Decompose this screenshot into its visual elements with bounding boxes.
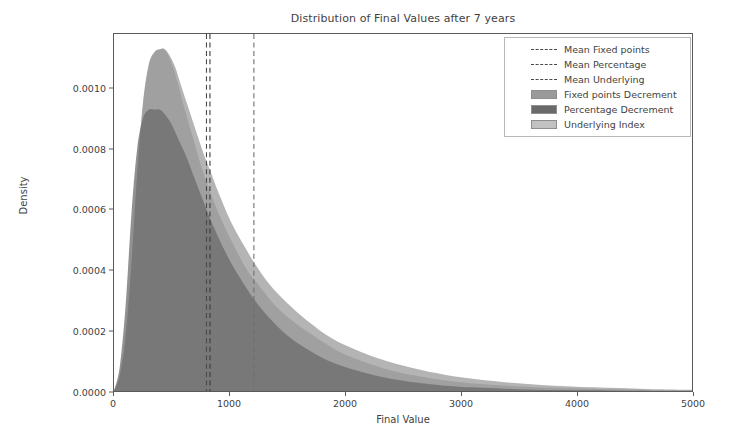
x-tick-mark	[229, 392, 230, 396]
chart-legend: Mean Fixed pointsMean PercentageMean Und…	[504, 37, 691, 137]
y-axis-label: Density	[18, 151, 29, 241]
y-axis-ticks: 0.00000.00020.00040.00060.00080.0010	[40, 0, 106, 440]
legend-color-patch-icon	[531, 120, 557, 129]
legend-dashed-line-icon	[531, 44, 557, 55]
legend-item[interactable]: Fixed points Decrement	[505, 87, 690, 102]
y-tick-mark	[109, 209, 113, 210]
legend-dashed-line-icon	[531, 59, 557, 70]
y-tick-label: 0.0004	[44, 265, 106, 276]
y-tick-mark	[109, 87, 113, 88]
x-tick-mark	[113, 392, 114, 396]
y-tick-mark	[109, 270, 113, 271]
legend-item-label: Fixed points Decrement	[564, 89, 677, 100]
y-tick-label: 0.0000	[44, 387, 106, 398]
legend-item[interactable]: Underlying Index	[505, 117, 690, 132]
x-axis-label: Final Value	[113, 414, 693, 425]
x-tick-mark	[693, 392, 694, 396]
y-tick-label: 0.0010	[44, 82, 106, 93]
x-tick-mark	[577, 392, 578, 396]
legend-item-label: Mean Percentage	[564, 59, 646, 70]
legend-item-label: Underlying Index	[564, 119, 645, 130]
x-tick-label: 2000	[333, 398, 357, 409]
x-tick-label: 4000	[565, 398, 589, 409]
x-tick-mark	[461, 392, 462, 396]
y-tick-label: 0.0008	[44, 143, 106, 154]
legend-item[interactable]: Mean Fixed points	[505, 42, 690, 57]
y-tick-mark	[109, 331, 113, 332]
y-tick-label: 0.0002	[44, 326, 106, 337]
legend-color-patch-icon	[531, 105, 557, 114]
legend-item-label: Mean Fixed points	[564, 44, 650, 55]
chart-figure: Distribution of Final Values after 7 yea…	[0, 0, 742, 440]
legend-item[interactable]: Mean Percentage	[505, 57, 690, 72]
legend-item[interactable]: Mean Underlying	[505, 72, 690, 87]
x-tick-label: 0	[110, 398, 116, 409]
legend-item-label: Mean Underlying	[564, 74, 645, 85]
y-tick-label: 0.0006	[44, 204, 106, 215]
chart-title: Distribution of Final Values after 7 yea…	[113, 12, 693, 25]
y-tick-mark	[109, 148, 113, 149]
legend-color-patch-icon	[531, 90, 557, 99]
x-tick-label: 5000	[681, 398, 705, 409]
x-tick-label: 1000	[217, 398, 241, 409]
x-tick-label: 3000	[449, 398, 473, 409]
legend-item-label: Percentage Decrement	[564, 104, 673, 115]
legend-dashed-line-icon	[531, 74, 557, 85]
legend-item[interactable]: Percentage Decrement	[505, 102, 690, 117]
x-tick-mark	[345, 392, 346, 396]
